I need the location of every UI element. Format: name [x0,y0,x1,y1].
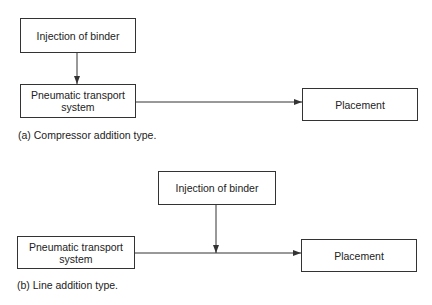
box-label: Pneumatic transport system [25,89,131,113]
placement-box-b: Placement [301,239,417,272]
box-label: Placement [334,250,384,262]
box-label: Injection of binder [176,182,259,194]
injection-of-binder-box-a: Injection of binder [20,18,136,53]
box-label: Injection of binder [37,30,120,42]
box-label: Pneumatic transport system [22,241,130,265]
placement-box-a: Placement [302,88,418,121]
pneumatic-transport-box-b: Pneumatic transport system [17,236,135,269]
box-label: Placement [335,99,385,111]
caption-a: (a) Compressor addition type. [18,129,156,141]
injection-of-binder-box-b: Injection of binder [158,171,276,205]
caption-b: (b) Line addition type. [17,279,118,291]
pneumatic-transport-box-a: Pneumatic transport system [20,84,136,118]
